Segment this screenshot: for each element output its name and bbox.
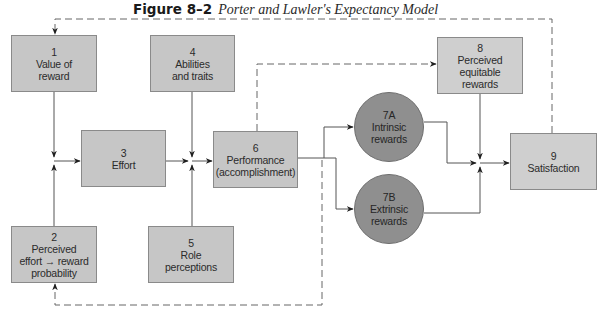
node-4-abilities-and-traits: 4 Abilities and traits bbox=[150, 35, 235, 92]
edge-7a-to-9 bbox=[424, 122, 476, 163]
node-label-line: Role bbox=[181, 249, 202, 261]
node-number: 9 bbox=[551, 150, 557, 162]
node-number: 1 bbox=[51, 46, 57, 58]
node-number: 7B bbox=[383, 191, 395, 203]
node-9-satisfaction: 9 Satisfaction bbox=[510, 133, 597, 190]
node-label-line: and traits bbox=[172, 70, 213, 82]
node-label-line: rewards bbox=[462, 78, 498, 90]
node-number: 3 bbox=[121, 147, 127, 159]
node-number: 6 bbox=[253, 142, 259, 154]
node-number: 2 bbox=[51, 231, 57, 243]
node-8-perceived-equitable-rewards: 8 Perceived equitable rewards bbox=[437, 37, 523, 94]
edge-6-to-7a bbox=[324, 127, 353, 158]
node-7a-intrinsic-rewards: 7A Intrinsic rewards bbox=[354, 92, 424, 162]
node-label-line: Intrinsic bbox=[372, 121, 406, 133]
node-number: 5 bbox=[188, 237, 194, 249]
node-1-value-of-reward: 1 Value of reward bbox=[11, 35, 97, 92]
node-label-line: perceptions bbox=[165, 261, 217, 273]
node-label-line: Performance bbox=[227, 154, 285, 166]
node-2-perceived-effort-reward-probability: 2 Perceived effort → reward probability bbox=[11, 226, 97, 283]
node-5-role-perceptions: 5 Role perceptions bbox=[148, 226, 234, 283]
node-label-line: Abilities bbox=[175, 58, 209, 70]
node-label-line: rewards bbox=[371, 215, 407, 227]
edge-7b-to-9 bbox=[424, 167, 480, 213]
node-label-line: equitable bbox=[460, 66, 501, 78]
node-label-line: Extrinsic bbox=[370, 203, 408, 215]
node-label-line: Perceived bbox=[458, 54, 503, 66]
node-label-line: (accomplishment) bbox=[216, 166, 296, 178]
node-label-line: Value of bbox=[36, 58, 72, 70]
node-6-performance: 6 Performance (accomplishment) bbox=[213, 131, 298, 188]
node-label-line: reward bbox=[39, 70, 70, 82]
node-number: 8 bbox=[477, 42, 483, 54]
node-number: 7A bbox=[383, 109, 395, 121]
node-3-effort: 3 Effort bbox=[81, 130, 166, 187]
node-label-line: effort → reward bbox=[19, 255, 88, 267]
node-number: 4 bbox=[190, 46, 196, 58]
node-7b-extrinsic-rewards: 7B Extrinsic rewards bbox=[354, 174, 424, 244]
node-label-line: Satisfaction bbox=[528, 162, 580, 174]
node-label-line: Perceived bbox=[32, 243, 77, 255]
node-label-line: rewards bbox=[371, 133, 407, 145]
node-label-line: Effort bbox=[112, 159, 136, 171]
node-label-line: probability bbox=[31, 267, 77, 279]
edge-6-to-7b bbox=[298, 158, 353, 209]
